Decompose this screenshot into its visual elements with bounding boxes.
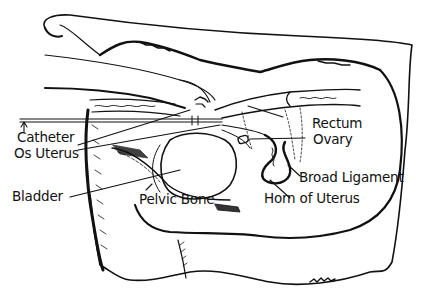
rectum bbox=[90, 89, 360, 118]
uterus bbox=[222, 108, 302, 183]
label-ovary: Ovary bbox=[313, 133, 352, 147]
catheter bbox=[20, 116, 222, 125]
label-rectum: Rectum bbox=[312, 117, 362, 131]
label-catheter: Catheter bbox=[17, 131, 74, 145]
label-bladder: Bladder bbox=[12, 190, 63, 204]
anatomy-diagram: Catheter Os Uterus Bladder Pelvic Bone R… bbox=[0, 0, 425, 303]
body-outline bbox=[44, 15, 412, 285]
bladder bbox=[153, 133, 237, 199]
label-pelvic-bone: Pelvic Bone bbox=[139, 193, 214, 207]
label-horn-of-uterus: Horn of Uterus bbox=[264, 192, 360, 206]
label-os-uterus: Os Uterus bbox=[14, 147, 79, 161]
label-broad-ligament: Broad Ligament bbox=[299, 171, 404, 185]
